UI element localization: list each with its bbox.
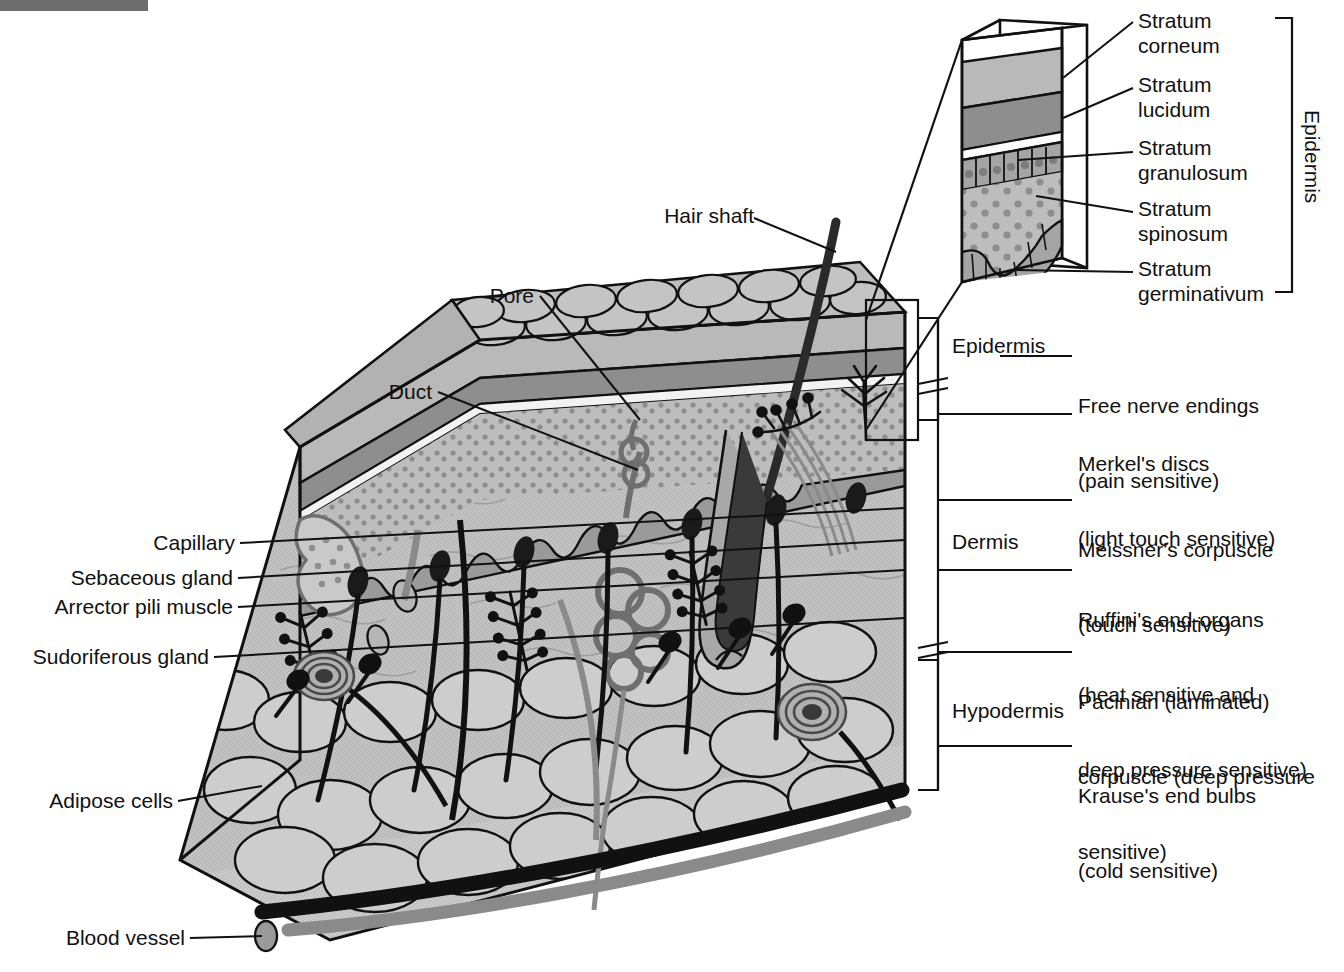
label-krauses-end-bulbs-line1: Krause's end bulbs xyxy=(1078,783,1256,808)
inset-label-stratum-germinativum: Stratum germinativum xyxy=(1138,256,1264,306)
bracket-label-dermis: Dermis xyxy=(952,529,1019,554)
label-krauses-end-bulbs: Krause's end bulbs (cold sensitive) xyxy=(1078,733,1256,933)
skin-diagram-canvas: Stratum corneum Stratum lucidum Stratum … xyxy=(0,0,1344,972)
inset-label-stratum-corneum: Stratum corneum xyxy=(1138,8,1220,58)
label-duct: Duct xyxy=(318,379,432,404)
label-merkels-discs-line1: Merkel's discs xyxy=(1078,451,1275,476)
skin-block xyxy=(170,222,930,951)
epidermis-inset-block xyxy=(958,20,1087,317)
inset-label-stratum-spinosum: Stratum spinosum xyxy=(1138,196,1228,246)
bracket-label-hypodermis: Hypodermis xyxy=(952,698,1064,723)
label-arrector-pili-muscle: Arrector pili muscle xyxy=(20,594,233,619)
label-hair-shaft: Hair shaft xyxy=(614,203,754,228)
label-pacinian-corpuscle-line1: Pacinian (laminated) xyxy=(1078,689,1315,714)
epidermis-inset-bracket xyxy=(1275,18,1292,292)
inset-bracket-label-epidermis: Epidermis xyxy=(1300,110,1324,203)
label-sebaceous-gland: Sebaceous gland xyxy=(30,565,233,590)
inset-label-stratum-granulosum: Stratum granulosum xyxy=(1138,135,1248,185)
inset-label-stratum-lucidum: Stratum lucidum xyxy=(1138,72,1212,122)
label-ruffinis-end-organs-line1: Ruffini's end-organs xyxy=(1078,607,1307,632)
label-capillary: Capillary xyxy=(30,530,235,555)
label-blood-vessel: Blood vessel xyxy=(20,925,185,950)
label-pore: Pore xyxy=(420,283,534,308)
label-adipose-cells: Adipose cells xyxy=(20,788,173,813)
label-sudoriferous-gland: Sudoriferous gland xyxy=(20,644,209,669)
bracket-label-epidermis: Epidermis xyxy=(952,333,1045,358)
layer-brackets xyxy=(918,318,948,790)
label-krauses-end-bulbs-line2: (cold sensitive) xyxy=(1078,858,1256,883)
